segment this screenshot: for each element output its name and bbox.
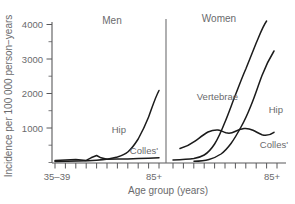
y-axis-title: Incidence per 100 000 person−years (3, 15, 14, 178)
series-label-men-colles: Colles' (130, 145, 158, 156)
y-tick-label-3000: 3000 (22, 54, 43, 65)
panel-men: Men Hip Colles' (55, 15, 159, 162)
y-tick-label-4000: 4000 (22, 19, 43, 30)
incidence-line-chart: 4000 3000 2000 1000 Incidence per 100 00… (0, 0, 295, 204)
x-axis-title: Age group (years) (128, 185, 208, 196)
x-tick-label-women-right: 85+ (264, 171, 281, 182)
y-tick-label-1000: 1000 (22, 123, 43, 134)
y-tick-label-2000: 2000 (22, 88, 43, 99)
figure-container: 4000 3000 2000 1000 Incidence per 100 00… (0, 0, 295, 204)
series-label-women-colles: Colles' (260, 139, 288, 150)
x-tick-label-men-right: 85+ (146, 171, 163, 182)
x-axis: 35–39 85+ 85+ Age group (years) (44, 163, 286, 196)
series-label-men-hip: Hip (112, 124, 126, 135)
series-label-women-hip: Hip (269, 104, 283, 115)
y-axis: 4000 3000 2000 1000 Incidence per 100 00… (3, 15, 52, 178)
panel-title-men: Men (102, 15, 121, 26)
series-label-women-vertebrae: Vertebrae (197, 91, 238, 102)
panel-women: Women Vertebrae Hip Colles' (173, 13, 288, 161)
x-tick-label-men-left: 35–39 (44, 171, 70, 182)
panel-title-women: Women (202, 13, 236, 24)
